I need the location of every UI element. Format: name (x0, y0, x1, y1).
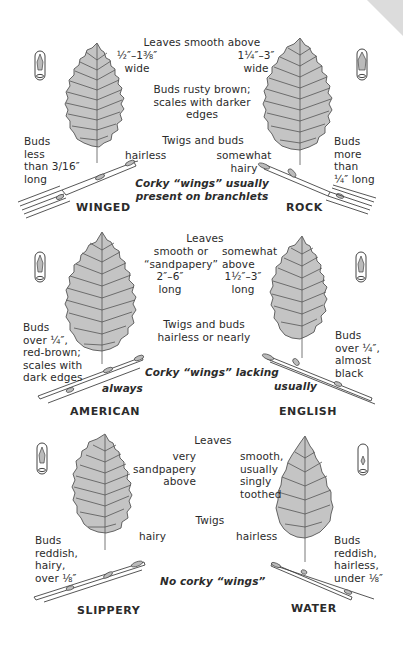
bud-closeup-icon (35, 51, 45, 80)
twigs-heading: Twigs and buds (150, 134, 256, 147)
corky-wings-note: Corky “wings” usually present on branchl… (132, 177, 272, 202)
american-corky-qualifier: always (102, 382, 143, 395)
slippery-twig-hairiness: hairy (139, 530, 166, 543)
corky-wings-note: Corky “wings” lacking (145, 366, 261, 379)
american-buds: Buds over ¼″, red-brown; scales with dar… (23, 321, 83, 384)
rock-twig-hairiness: somewhat hairy (216, 149, 272, 174)
species-label-water: WATER (291, 602, 337, 615)
rock-buds: Buds more than ¼″ long (334, 135, 375, 185)
water-leaf-surface: smooth, usually singly toothed (240, 450, 283, 500)
species-label-winged: WINGED (76, 201, 131, 214)
twigs-heading: Twigs (190, 514, 230, 527)
slippery-leaf-surface: very sandpapery above (132, 450, 196, 488)
bud-closeup-icon (357, 49, 367, 80)
english-leaf-illustration (270, 236, 327, 358)
slippery-buds: Buds reddish, hairy, over ⅛″ (35, 534, 78, 584)
water-leaf-illustration (276, 436, 333, 562)
water-buds: Buds reddish, hairless, under ⅛″ (334, 534, 383, 584)
slippery-leaf-illustration (72, 434, 132, 550)
english-corky-qualifier: usually (274, 380, 317, 393)
winged-leaf-width: ½″–1⅜″ wide (113, 49, 161, 74)
species-label-rock: ROCK (286, 201, 323, 214)
winged-twig-hairiness: hairless (125, 149, 166, 162)
bud-closeup-icon (35, 252, 45, 282)
winged-buds: Buds less than 3/16″ long (24, 135, 80, 185)
bud-closeup-icon (358, 444, 368, 475)
american-leaf-length: 2″–6″ long (150, 270, 190, 295)
leaves-heading: Leaves (180, 232, 230, 245)
leaves-heading: Leaves (188, 434, 238, 447)
leaves-heading: Leaves smooth above (142, 36, 262, 49)
species-label-slippery: SLIPPERY (77, 604, 140, 617)
bud-closeup-icon (37, 443, 47, 474)
species-label-american: AMERICAN (70, 405, 140, 418)
species-label-english: ENGLISH (279, 405, 337, 418)
bud-closeup-icon (356, 252, 366, 282)
english-buds: Buds over ¼″, almost black (335, 329, 380, 379)
american-leaf-surface: smooth or “sandpapery” (140, 245, 222, 270)
rock-leaf-width: 1¼″–3″ wide (232, 49, 280, 74)
water-twig-hairiness: hairless (236, 530, 277, 543)
english-leaf-surface: somewhat above (222, 245, 277, 270)
buds-description: Buds rusty brown; scales with darker edg… (138, 83, 266, 121)
corky-wings-note: No corky “wings” (160, 575, 260, 588)
english-leaf-length: 1½″–3″ long (222, 270, 264, 295)
twigs-heading: Twigs and buds hairless or nearly (148, 318, 260, 343)
